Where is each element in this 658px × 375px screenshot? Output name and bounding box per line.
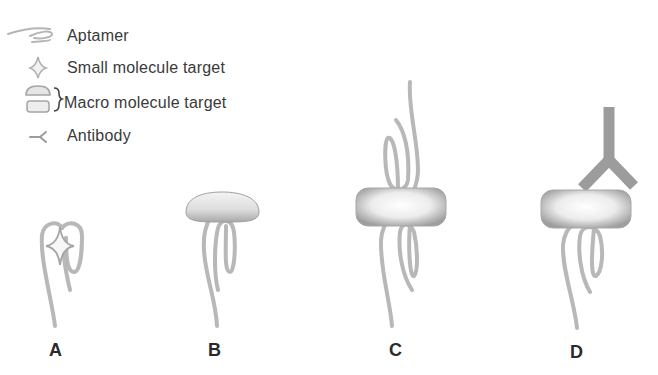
macro-molecule-icon xyxy=(26,86,62,112)
panel-c-aptamer-bottom xyxy=(381,218,417,326)
panel-label-a: A xyxy=(49,340,62,361)
aptamer-icon xyxy=(8,28,52,42)
diagram-canvas xyxy=(0,0,658,375)
panel-b-macro-molecule xyxy=(186,192,259,222)
panel-d-antibody xyxy=(582,107,634,188)
panel-d-aptamer xyxy=(563,226,602,328)
panel-a-small-molecule xyxy=(46,227,74,265)
panel-d-macro-molecule xyxy=(541,190,631,228)
small-molecule-icon xyxy=(30,57,46,78)
panel-label-d: D xyxy=(570,342,583,363)
panel-c-macro-molecule xyxy=(356,188,446,226)
panel-c-aptamer-top xyxy=(385,82,418,196)
antibody-icon xyxy=(30,132,46,142)
legend-label-aptamer: Aptamer xyxy=(67,27,129,45)
panel-label-b: B xyxy=(208,340,221,361)
legend-label-small-molecule: Small molecule target xyxy=(67,59,225,77)
panel-label-c: C xyxy=(389,340,402,361)
legend-label-antibody: Antibody xyxy=(67,127,131,145)
panel-b-aptamer xyxy=(204,218,235,326)
legend-label-macro-molecule: Macro molecule target xyxy=(64,94,227,112)
